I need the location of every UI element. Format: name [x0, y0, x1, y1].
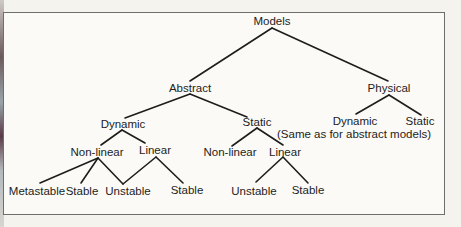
node-physical-static: Static [406, 115, 435, 128]
leaf-dynamic-nonlinear-metastable: Metastable [9, 185, 65, 198]
edge-nonlinear-unstable [98, 158, 123, 184]
leaf-dynamic-nonlinear-stable: Stable [66, 185, 99, 198]
edge-abstract-dynamic [125, 94, 190, 118]
leaf-static-linear-stable: Stable [292, 184, 325, 197]
edge-physical-static [389, 95, 421, 115]
edge-dynamic-linear [122, 130, 145, 143]
node-dynamic-linear: Linear [139, 144, 171, 157]
node-static-nonlinear: Non-linear [203, 146, 256, 159]
leaf-static-linear-unstable: Unstable [231, 185, 276, 198]
leaf-dynamic-unstable: Unstable [105, 185, 150, 198]
edge-linear-unstable [123, 157, 156, 184]
edge-models-abstract [190, 28, 272, 81]
edge-models-physical [272, 28, 388, 81]
leaf-dynamic-linear-stable: Stable [171, 184, 204, 197]
edge-dynamic-nonlinear [101, 130, 122, 145]
physical-note: (Same as for abstract models) [277, 128, 431, 141]
node-physical: Physical [368, 82, 411, 95]
node-static-linear: Linear [269, 146, 301, 159]
edge-static-linear-stable [283, 157, 308, 183]
edge-physical-dynamic [356, 95, 389, 114]
node-models: Models [253, 15, 290, 28]
node-dynamic-nonlinear: Non-linear [70, 146, 123, 159]
edge-static-linear-unstable [256, 157, 283, 182]
node-abstract-dynamic: Dynamic [101, 118, 146, 131]
edge-abstract-static [190, 94, 247, 117]
node-abstract-static: Static [243, 116, 272, 129]
node-physical-dynamic: Dynamic [333, 115, 378, 128]
edge-static-nonlinear [232, 128, 257, 146]
node-abstract: Abstract [169, 82, 211, 95]
edge-linear-stable [156, 157, 183, 183]
